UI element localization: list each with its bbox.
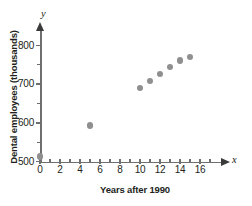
x-tick-label: 6: [90, 165, 110, 175]
x-tick-label: 2: [50, 165, 70, 175]
data-point: [137, 85, 143, 91]
x-tick-minor: [129, 159, 130, 163]
scatter-plot: y x 500600700800 0246810121416 Dental em…: [0, 0, 252, 206]
x-tick-label: 12: [150, 165, 170, 175]
x-axis-title: Years after 1990: [60, 185, 210, 195]
data-point: [87, 122, 93, 128]
x-variable-label: x: [232, 154, 237, 165]
data-point: [147, 78, 153, 84]
data-point: [157, 71, 163, 77]
data-point: [177, 57, 183, 63]
y-axis-title: Dental employees (thousands): [9, 22, 19, 172]
x-axis-line: [40, 162, 222, 164]
x-tick-minor: [149, 159, 150, 163]
x-tick-minor: [189, 159, 190, 163]
y-tick-major: [36, 45, 41, 46]
x-tick-label: 14: [170, 165, 190, 175]
y-tick-minor: [37, 142, 40, 143]
x-tick-minor: [69, 159, 70, 163]
x-tick-minor: [209, 159, 210, 163]
y-tick-major: [36, 83, 41, 84]
y-axis-line: [40, 30, 42, 163]
data-point: [187, 54, 193, 60]
data-point: [37, 153, 43, 159]
x-tick-label: 0: [30, 165, 50, 175]
x-tick-minor: [169, 159, 170, 163]
x-tick-minor: [49, 159, 50, 163]
x-tick-minor: [89, 159, 90, 163]
y-tick-major: [36, 122, 41, 123]
y-variable-label: y: [41, 8, 46, 19]
x-tick-label: 4: [70, 165, 90, 175]
y-tick-minor: [37, 64, 40, 65]
x-tick-label: 8: [110, 165, 130, 175]
x-tick-minor: [109, 159, 110, 163]
y-tick-minor: [37, 103, 40, 104]
data-point: [167, 64, 173, 70]
x-axis-arrow-icon: [221, 158, 230, 166]
x-tick-label: 10: [130, 165, 150, 175]
y-axis-arrow-icon: [36, 22, 44, 31]
x-tick-label: 16: [190, 165, 210, 175]
